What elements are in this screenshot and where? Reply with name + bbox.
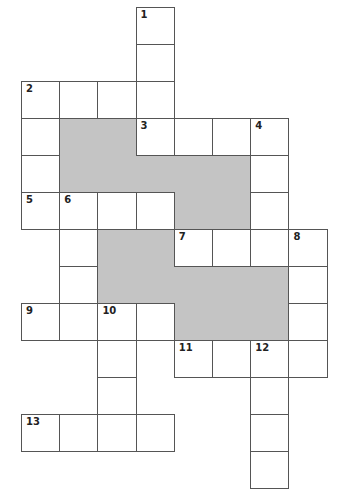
crossword-cell[interactable] (97, 81, 136, 119)
crossword-cell[interactable]: 8 (288, 229, 327, 267)
shaded-block (59, 118, 135, 192)
crossword-cell[interactable]: 9 (21, 303, 60, 341)
crossword-cell[interactable] (136, 192, 175, 230)
clue-number: 7 (179, 232, 186, 242)
clue-number: 2 (26, 84, 33, 94)
crossword-cell[interactable]: 12 (250, 340, 289, 378)
crossword-cell[interactable]: 3 (136, 118, 175, 156)
crossword-cell[interactable] (136, 81, 175, 119)
crossword-cell[interactable] (136, 414, 175, 452)
clue-number: 3 (141, 121, 148, 131)
clue-number: 8 (293, 232, 300, 242)
crossword-cell[interactable] (97, 340, 136, 378)
crossword-cell[interactable] (250, 192, 289, 230)
shaded-block (97, 229, 173, 303)
crossword-cell[interactable] (97, 414, 136, 452)
crossword-cell[interactable] (59, 266, 98, 304)
crossword-cell[interactable] (59, 229, 98, 267)
crossword-cell[interactable] (21, 118, 60, 156)
clue-number: 11 (179, 343, 193, 353)
clue-number: 12 (255, 343, 269, 353)
clue-number: 10 (102, 306, 116, 316)
crossword-cell[interactable] (212, 229, 251, 267)
crossword-cell[interactable] (212, 340, 251, 378)
shaded-block (174, 266, 289, 340)
shaded-block (136, 155, 174, 192)
crossword-cell[interactable] (21, 155, 60, 193)
crossword-cell[interactable] (250, 155, 289, 193)
crossword-cell[interactable] (288, 303, 327, 341)
crossword-cell[interactable] (250, 229, 289, 267)
crossword-cell[interactable]: 5 (21, 192, 60, 230)
clue-number: 9 (26, 306, 33, 316)
crossword-cell[interactable] (174, 118, 213, 156)
clue-number: 6 (64, 195, 71, 205)
crossword-cell[interactable] (250, 377, 289, 415)
crossword-cell[interactable]: 1 (136, 7, 175, 45)
clue-number: 13 (26, 417, 40, 427)
crossword-cell[interactable] (250, 451, 289, 489)
crossword-cell[interactable] (288, 266, 327, 304)
crossword-cell[interactable] (97, 192, 136, 230)
crossword-cell[interactable]: 4 (250, 118, 289, 156)
clue-number: 4 (255, 121, 262, 131)
crossword-cell[interactable]: 7 (174, 229, 213, 267)
crossword-cell[interactable] (97, 377, 136, 415)
crossword-board: 13254678910111213 (0, 0, 340, 502)
crossword-cell[interactable] (59, 303, 98, 341)
shaded-block (174, 155, 250, 229)
crossword-cell[interactable] (136, 303, 175, 341)
crossword-cell[interactable]: 2 (21, 81, 60, 119)
crossword-cell[interactable]: 11 (174, 340, 213, 378)
crossword-cell[interactable]: 6 (59, 192, 98, 230)
clue-number: 5 (26, 195, 33, 205)
crossword-cell[interactable] (288, 340, 327, 378)
crossword-cell[interactable]: 10 (97, 303, 136, 341)
crossword-cell[interactable] (212, 118, 251, 156)
crossword-cell[interactable] (136, 44, 175, 82)
crossword-cell[interactable]: 13 (21, 414, 60, 452)
clue-number: 1 (141, 10, 148, 20)
crossword-cell[interactable] (59, 81, 98, 119)
crossword-cell[interactable] (250, 414, 289, 452)
crossword-cell[interactable] (59, 414, 98, 452)
